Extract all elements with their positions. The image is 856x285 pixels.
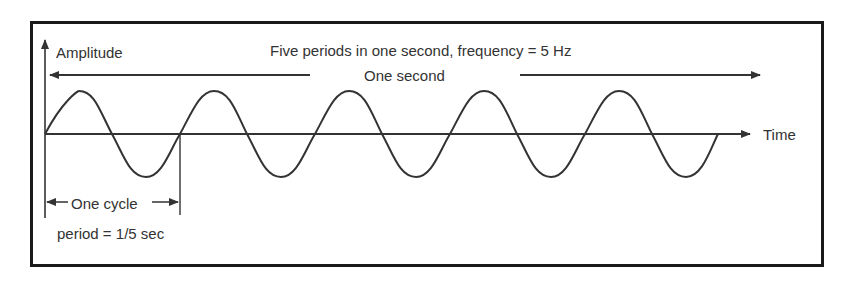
one-cycle-label: One cycle bbox=[71, 196, 138, 211]
period-label: period = 1/5 sec bbox=[57, 226, 164, 241]
y-axis-label: Amplitude bbox=[56, 45, 123, 60]
x-axis-label: Time bbox=[763, 127, 796, 142]
one-second-label: One second bbox=[364, 68, 445, 83]
diagram-title: Five periods in one second, frequency = … bbox=[270, 43, 571, 58]
